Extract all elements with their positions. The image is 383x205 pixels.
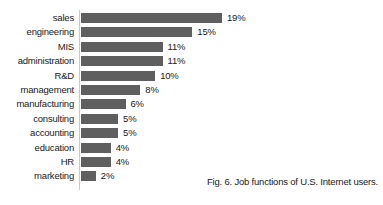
category-label: manufacturing <box>0 98 74 109</box>
bar-row: administration11% <box>0 56 383 66</box>
bar <box>81 143 111 153</box>
bar <box>81 71 155 81</box>
bar <box>81 171 96 181</box>
bar-row: consulting5% <box>0 114 383 124</box>
bar <box>81 42 163 52</box>
bar <box>81 27 192 37</box>
bar <box>81 85 140 95</box>
category-label: engineering <box>0 26 74 37</box>
bar <box>81 56 163 66</box>
bar-row: sales19% <box>0 13 383 23</box>
category-label: HR <box>0 156 74 167</box>
value-label: 19% <box>227 12 245 23</box>
value-label: 11% <box>168 55 186 66</box>
value-label: 2% <box>101 170 114 181</box>
bar-row: accounting5% <box>0 128 383 138</box>
bar <box>81 128 118 138</box>
bar-row: manufacturing6% <box>0 99 383 109</box>
value-label: 4% <box>116 156 129 167</box>
bar-row: management8% <box>0 85 383 95</box>
value-label: 11% <box>168 41 186 52</box>
category-label: MIS <box>0 41 74 52</box>
bar <box>81 13 222 23</box>
bar <box>81 99 126 109</box>
value-label: 4% <box>116 142 129 153</box>
category-label: education <box>0 142 74 153</box>
bar <box>81 157 111 167</box>
value-label: 10% <box>160 70 178 81</box>
category-label: marketing <box>0 170 74 181</box>
category-label: administration <box>0 55 74 66</box>
bar-row: HR4% <box>0 157 383 167</box>
category-label: management <box>0 84 74 95</box>
value-label: 6% <box>131 98 144 109</box>
bar-row: MIS11% <box>0 42 383 52</box>
bar-row: engineering15% <box>0 27 383 37</box>
value-label: 15% <box>197 26 215 37</box>
category-label: accounting <box>0 127 74 138</box>
bar-chart-plot-area: sales19%engineering15%MIS11%administrati… <box>0 0 383 205</box>
figure-caption: Fig. 6. Job functions of U.S. Internet u… <box>207 176 378 188</box>
category-label: consulting <box>0 113 74 124</box>
value-label: 5% <box>123 113 136 124</box>
bar-row: education4% <box>0 143 383 153</box>
bar <box>81 114 118 124</box>
bar-row: R&D10% <box>0 71 383 81</box>
figure-container: sales19%engineering15%MIS11%administrati… <box>0 0 383 205</box>
value-label: 5% <box>123 127 136 138</box>
value-label: 8% <box>145 84 158 95</box>
category-label: sales <box>0 12 74 23</box>
category-label: R&D <box>0 70 74 81</box>
